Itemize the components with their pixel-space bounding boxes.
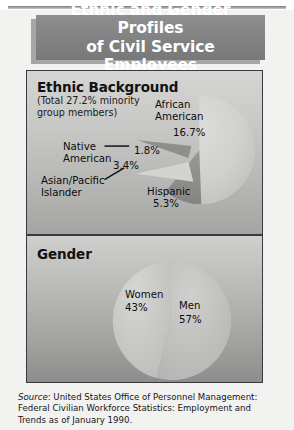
page-title: Ethnic and Gender Profiles of Civil Serv… (36, 1, 265, 74)
value-native-american: 1.8% (134, 145, 160, 157)
label-women: Women (125, 289, 163, 301)
ethnic-panel-subtitle: (Total 27.2% minority group members) (37, 95, 140, 118)
source-note: Source: United States Office of Personne… (18, 392, 280, 426)
gender-panel-heading: Gender (37, 246, 92, 262)
pie-slice-asian-pacific (136, 162, 193, 182)
label-native-american: Native American (63, 141, 111, 165)
value-asian-pacific-islander: 3.4% (113, 160, 139, 172)
value-african-american: 16.7% (173, 127, 205, 139)
title-banner: Ethnic and Gender Profiles of Civil Serv… (36, 15, 265, 60)
source-label: Source (18, 392, 48, 402)
label-asian-pacific-islander: Asian/Pacific Islander (41, 175, 105, 199)
value-hispanic: 5.3% (153, 198, 179, 210)
value-men: 57% (179, 314, 202, 326)
ethnic-panel-heading: Ethnic Background (37, 79, 178, 95)
value-women: 43% (125, 302, 148, 314)
label-african-american: African American (155, 99, 203, 123)
ethnic-background-panel: Ethnic Background (Total 27.2% minority … (26, 70, 263, 235)
label-men: Men (179, 300, 201, 312)
label-hispanic: Hispanic (147, 186, 190, 198)
source-text: : United States Office of Personnel Mana… (18, 392, 257, 425)
gender-panel: Gender Women 43% Men 57% (26, 235, 263, 383)
infographic-page: Ethnic and Gender Profiles of Civil Serv… (0, 0, 294, 430)
